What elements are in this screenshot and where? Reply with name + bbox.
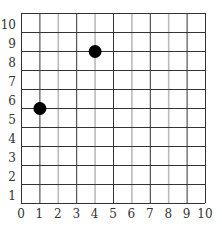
x-tick-label: 0: [17, 207, 25, 221]
y-tick-label: 9: [8, 37, 16, 51]
x-tick-label: 4: [91, 207, 99, 221]
coordinate-grid-chart: 012345678910 12345678910: [0, 0, 222, 228]
grid-lines: [21, 13, 206, 204]
data-point: [89, 45, 102, 58]
y-tick-label: 1: [8, 189, 16, 203]
x-tick-label: 2: [54, 207, 62, 221]
y-tick-label: 8: [8, 56, 16, 70]
y-tick-label: 7: [8, 75, 16, 89]
y-tick-label: 3: [8, 151, 16, 165]
x-tick-label: 1: [36, 207, 44, 221]
x-tick-label: 5: [109, 207, 117, 221]
data-point: [33, 102, 46, 115]
x-axis-tick-labels: 012345678910: [17, 207, 212, 221]
y-axis-tick-labels: 12345678910: [1, 18, 17, 203]
y-tick-label: 6: [8, 94, 16, 108]
y-tick-label: 10: [1, 18, 16, 32]
x-tick-label: 7: [146, 207, 154, 221]
x-tick-label: 9: [183, 207, 191, 221]
y-tick-label: 5: [8, 113, 16, 127]
x-tick-label: 6: [128, 207, 136, 221]
x-tick-label: 3: [72, 207, 80, 221]
data-points: [33, 45, 101, 115]
y-tick-label: 4: [8, 132, 16, 146]
y-tick-label: 2: [8, 170, 16, 184]
x-tick-label: 8: [164, 207, 172, 221]
x-tick-label: 10: [197, 207, 212, 221]
